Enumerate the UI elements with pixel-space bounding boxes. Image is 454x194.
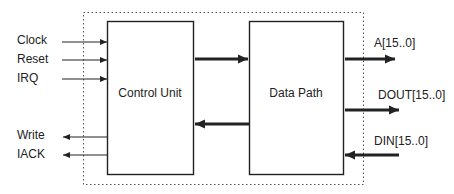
din-bus-label: DIN[15..0] (374, 134, 428, 148)
address-bus-label: A[15..0] (374, 36, 415, 50)
control-unit-label: Control Unit (118, 86, 181, 100)
dout-bus-label: DOUT[15..0] (378, 88, 445, 102)
data-path-label: Data Path (269, 86, 322, 100)
irq-label: IRQ (17, 71, 38, 85)
write-label: Write (17, 128, 45, 142)
clock-label: Clock (17, 33, 47, 47)
reset-label: Reset (17, 52, 48, 66)
iack-label: IACK (17, 147, 45, 161)
processor-block-diagram: Clock Reset IRQ Write IACK Control Unit … (0, 0, 454, 194)
